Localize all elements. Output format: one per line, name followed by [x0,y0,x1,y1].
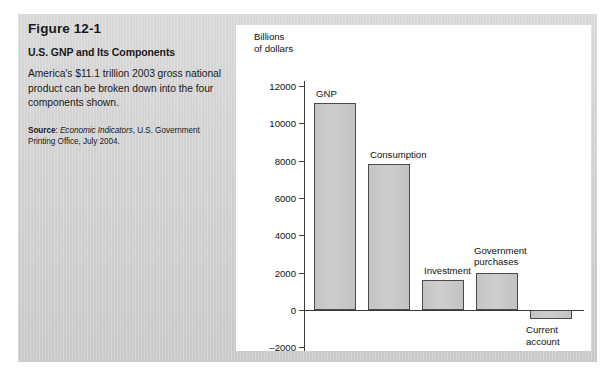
source-publication: Economic Indicators [60,126,133,135]
bar-investment [422,280,464,310]
figure-caption-column: Figure 12-1 U.S. GNP and Its Components … [28,22,228,148]
y-tick-mark [299,347,305,348]
y-tick-mark [299,310,305,311]
bar-government-purchases [476,273,518,310]
figure-panel: Figure 12-1 U.S. GNP and Its Components … [18,14,597,362]
bar-label-gnp: GNP [316,88,337,100]
bar-current-account [530,310,572,319]
plot-area: 120001000080006000400020000–2000GNPConsu… [236,25,591,351]
y-tick-mark [299,198,305,199]
figure-description: America's $11.1 trillion 2003 gross nati… [28,67,228,111]
bar-gnp [314,103,356,310]
y-tick-mark [299,273,305,274]
figure-title: U.S. GNP and Its Components [28,46,228,58]
bar-consumption [368,164,410,310]
y-tick-label: 8000 [244,155,296,166]
y-tick-label: 6000 [244,193,296,204]
figure-source: Source: Economic Indicators, U.S. Govern… [28,125,228,148]
bar-label-current-account: Current account [526,324,560,347]
y-tick-mark [299,123,305,124]
y-tick-label: 0 [244,305,296,316]
y-tick-label: 2000 [244,267,296,278]
bar-label-investment: Investment [424,265,471,277]
y-tick-label: 12000 [244,81,296,92]
y-tick-mark [299,86,305,87]
y-tick-mark [299,161,305,162]
y-tick-label: –2000 [244,342,296,351]
chart-panel: Billions of dollars 12000100008000600040… [236,25,591,351]
bar-label-government-purchases: Government purchases [474,245,527,268]
y-tick-mark [299,235,305,236]
y-tick-label: 4000 [244,230,296,241]
figure-number: Figure 12-1 [28,22,228,37]
y-tick-label: 10000 [244,118,296,129]
source-label: Source [28,126,55,135]
bar-label-consumption: Consumption [370,149,427,161]
